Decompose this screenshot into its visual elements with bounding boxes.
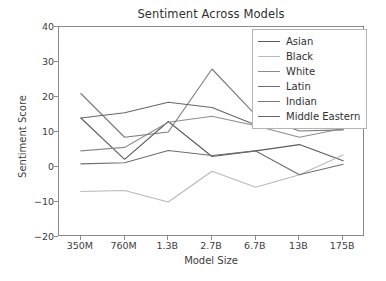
legend-item[interactable]: White bbox=[258, 64, 360, 79]
y-tick-label: 0 bbox=[8, 161, 54, 172]
legend-label: Black bbox=[286, 52, 313, 62]
legend-label: Middle Eastern bbox=[286, 112, 360, 122]
y-tick-label: −20 bbox=[8, 231, 54, 242]
legend-swatch-icon bbox=[258, 116, 280, 117]
x-tick-mark bbox=[255, 236, 256, 240]
y-tick-label: 10 bbox=[8, 126, 54, 137]
legend-item[interactable]: Asian bbox=[258, 34, 360, 49]
legend-swatch-icon bbox=[258, 86, 280, 87]
chart-legend[interactable]: AsianBlackWhiteLatinIndianMiddle Eastern bbox=[252, 29, 367, 129]
legend-item[interactable]: Black bbox=[258, 49, 360, 64]
legend-item[interactable]: Middle Eastern bbox=[258, 109, 360, 124]
series-line bbox=[81, 155, 343, 202]
chart-title: Sentiment Across Models bbox=[58, 7, 364, 21]
x-tick-mark bbox=[298, 236, 299, 240]
x-tick-mark bbox=[342, 236, 343, 240]
legend-label: Asian bbox=[286, 37, 313, 47]
x-axis-label: Model Size bbox=[58, 255, 364, 266]
legend-swatch-icon bbox=[258, 101, 280, 102]
legend-label: Indian bbox=[286, 97, 317, 107]
legend-label: Latin bbox=[286, 82, 311, 92]
legend-label: White bbox=[286, 67, 315, 77]
y-axis-ticks: 403020100−10−20 bbox=[0, 0, 54, 281]
x-tick-mark bbox=[167, 236, 168, 240]
legend-item[interactable]: Indian bbox=[258, 94, 360, 109]
x-tick-mark bbox=[124, 236, 125, 240]
y-tick-label: 40 bbox=[8, 21, 54, 32]
y-tick-label: 20 bbox=[8, 91, 54, 102]
x-tick-label: 175B bbox=[312, 240, 372, 251]
legend-swatch-icon bbox=[258, 41, 280, 42]
x-tick-mark bbox=[211, 236, 212, 240]
y-tick-mark bbox=[54, 236, 58, 237]
legend-swatch-icon bbox=[258, 71, 280, 72]
y-tick-label: −10 bbox=[8, 196, 54, 207]
legend-item[interactable]: Latin bbox=[258, 79, 360, 94]
legend-swatch-icon bbox=[258, 56, 280, 57]
x-tick-mark bbox=[80, 236, 81, 240]
y-tick-label: 30 bbox=[8, 56, 54, 67]
chart-figure: Sentiment Across Models Sentiment Score … bbox=[0, 0, 386, 281]
